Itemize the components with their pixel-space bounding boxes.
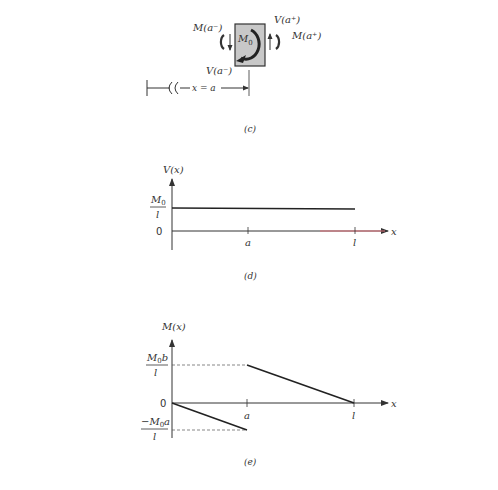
panel-c: M0 M(a⁻) V(a⁺) M(a⁺) V(a⁻) x = a (c) bbox=[147, 14, 321, 134]
moment-right-label: M(a⁺) bbox=[291, 30, 321, 41]
shear-left-label: V(a⁻) bbox=[206, 65, 232, 76]
panel-e: M(x) M0b l 0 −M0a l a l x (e) bbox=[141, 321, 397, 467]
svg-text:x: x bbox=[391, 226, 397, 237]
moment-left-label: M(a⁻) bbox=[192, 22, 222, 33]
svg-text:l: l bbox=[153, 431, 156, 442]
svg-text:l: l bbox=[154, 367, 157, 378]
v-axis-label: V(x) bbox=[163, 164, 184, 175]
caption-d: (d) bbox=[244, 271, 257, 281]
caption-c: (c) bbox=[244, 124, 257, 134]
svg-text:l: l bbox=[353, 237, 356, 248]
svg-text:l: l bbox=[156, 209, 159, 220]
svg-text:−M0a: −M0a bbox=[141, 416, 170, 429]
panel-d: V(x) M0 l 0 a l x (d) bbox=[150, 164, 397, 281]
svg-text:0: 0 bbox=[156, 226, 162, 237]
moment-left-curl-icon bbox=[221, 35, 224, 49]
svg-text:a: a bbox=[244, 410, 250, 421]
beam-diagrams: M0 M(a⁻) V(a⁺) M(a⁺) V(a⁻) x = a (c) V(x… bbox=[0, 0, 498, 490]
svg-text:a: a bbox=[245, 237, 251, 248]
svg-text:0: 0 bbox=[160, 398, 166, 409]
moment-line-right bbox=[247, 365, 354, 403]
shear-right-label: V(a⁺) bbox=[274, 14, 300, 25]
svg-text:M0b: M0b bbox=[146, 352, 168, 365]
svg-text:x: x bbox=[391, 398, 397, 409]
position-label: x = a bbox=[192, 83, 216, 93]
svg-text:M0: M0 bbox=[150, 194, 166, 207]
caption-e: (e) bbox=[244, 457, 257, 467]
shear-line bbox=[172, 208, 355, 209]
moment-line-left bbox=[172, 403, 247, 430]
svg-text:l: l bbox=[352, 410, 355, 421]
moment-right-curl-icon bbox=[276, 35, 279, 49]
m-axis-label: M(x) bbox=[161, 321, 186, 332]
break-symbol-icon bbox=[169, 82, 178, 94]
